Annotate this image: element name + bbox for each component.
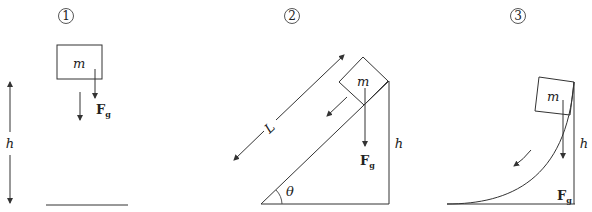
panel-number-3: 3 (511, 9, 526, 24)
gravity-force-label: Fg (96, 102, 111, 119)
length-arrow-down (234, 131, 264, 160)
length-label: L (261, 119, 278, 137)
height-label: h (580, 136, 588, 151)
panel-number-1: 1 (59, 9, 74, 24)
svg-text:2: 2 (288, 9, 296, 23)
panel-2: 2 θ m Fg L h (234, 9, 403, 205)
slide-direction-arrow (514, 150, 531, 166)
mass-label: m (357, 74, 369, 89)
panel-number-2: 2 (285, 9, 300, 24)
panel-3: 3 m Fg h (447, 9, 588, 206)
gravity-force-label: Fg (557, 188, 572, 205)
panel-1: 1 m Fg h (6, 9, 128, 206)
svg-text:1: 1 (62, 9, 70, 23)
height-label: h (395, 136, 403, 151)
physics-diagram: 1 m Fg h 2 θ m Fg L h (0, 0, 592, 212)
gravity-force-label: Fg (360, 153, 375, 170)
mass-label: m (73, 56, 85, 71)
angle-label: θ (286, 184, 294, 199)
height-label: h (6, 136, 14, 151)
slide-direction-arrow (327, 97, 347, 116)
length-arrow-up (276, 55, 344, 120)
angle-arc (276, 190, 282, 204)
svg-text:3: 3 (514, 9, 522, 23)
mass-label: m (547, 89, 559, 104)
